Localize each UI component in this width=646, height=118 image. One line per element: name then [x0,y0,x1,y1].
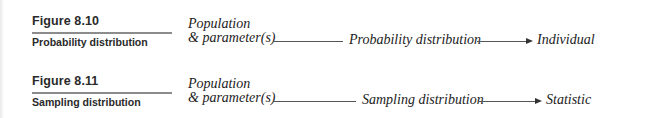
source-line-2: & parameter(s) [188,31,276,45]
connector-line [273,101,356,102]
figure-caption: Sampling distribution [32,96,141,108]
figure-label: Figure 8.11 [32,74,98,88]
source-line-1: Population [188,17,276,31]
figure-caption: Probability distribution [32,36,148,48]
arrow-line [478,101,536,102]
source-node: Population & parameter(s) [188,77,276,105]
arrowhead-icon [526,38,533,44]
target-node: Individual [537,32,595,48]
source-line-2: & parameter(s) [188,91,276,105]
figure-8-10: Figure 8.10 Probability distribution Pop… [0,14,646,54]
target-node: Statistic [546,92,591,108]
middle-node: Sampling distribution [362,92,484,108]
source-node: Population & parameter(s) [188,17,276,45]
figure-rule [32,32,172,34]
figure-8-11: Figure 8.11 Sampling distribution Popula… [0,74,646,114]
figure-label: Figure 8.10 [32,14,99,28]
middle-node: Probability distribution [349,32,481,48]
figure-rule [32,92,172,94]
arrowhead-icon [535,98,542,104]
connector-line [273,41,343,42]
arrow-line [477,41,527,42]
source-line-1: Population [188,77,276,91]
